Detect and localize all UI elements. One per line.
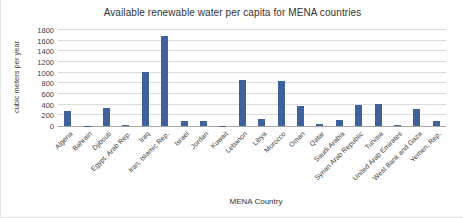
- bar: [336, 120, 343, 126]
- y-tick-label: 0: [30, 122, 54, 131]
- gridline: [58, 50, 446, 51]
- x-tick-label: Jordan: [189, 130, 209, 150]
- y-tick-label: 1800: [30, 26, 54, 35]
- gridline: [58, 104, 446, 105]
- y-tick-label: 1200: [30, 58, 54, 67]
- x-axis-line: [58, 126, 446, 127]
- chart-title: Available renewable water per capita for…: [1, 7, 463, 18]
- bar: [278, 81, 285, 126]
- bar: [258, 119, 265, 126]
- gridline: [58, 29, 446, 30]
- bar: [181, 121, 188, 126]
- plot-area: [58, 30, 446, 126]
- bar: [413, 109, 420, 126]
- y-tick-label: 400: [30, 101, 54, 110]
- bar: [122, 125, 129, 126]
- bar: [200, 121, 207, 126]
- x-axis-title: MENA Country: [1, 197, 463, 206]
- bar: [433, 121, 440, 126]
- bar: [239, 80, 246, 126]
- gridline: [58, 82, 446, 83]
- y-tick-label: 1600: [30, 37, 54, 46]
- gridline: [58, 40, 446, 41]
- gridline: [58, 93, 446, 94]
- gridline: [58, 61, 446, 62]
- gridline: [58, 114, 446, 115]
- chart-page: { "chart_data": { "type": "bar", "title"…: [0, 0, 463, 218]
- bar: [394, 125, 401, 126]
- y-tick-label: 600: [30, 90, 54, 99]
- bar: [84, 126, 91, 127]
- bar: [142, 72, 149, 126]
- bar: [161, 36, 168, 126]
- y-tick-label: 1400: [30, 47, 54, 56]
- x-tick-label: Israel: [173, 130, 190, 147]
- x-tick-label: Oman: [288, 130, 306, 148]
- bar: [316, 124, 323, 126]
- bar: [103, 108, 110, 126]
- x-tick-label: Bahrain: [71, 130, 93, 152]
- y-tick-label: 200: [30, 111, 54, 120]
- x-tick-label: Libya: [251, 130, 268, 147]
- bar: [219, 126, 226, 127]
- bar: [355, 105, 362, 126]
- bar: [297, 106, 304, 126]
- x-tick-label: Qatar: [309, 130, 326, 147]
- y-axis-title: cubic meters per year: [12, 29, 24, 125]
- y-tick-label: 1000: [30, 69, 54, 78]
- x-tick-label: Iraq: [138, 130, 151, 143]
- bar: [375, 104, 382, 126]
- gridline: [58, 72, 446, 73]
- y-tick-label: 800: [30, 79, 54, 88]
- bar: [64, 111, 71, 126]
